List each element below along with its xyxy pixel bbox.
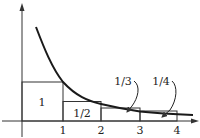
x-tick-labels: 1 2 3 4	[60, 124, 181, 137]
y-axis-arrow-icon	[20, 3, 25, 11]
x-tick-4: 4	[174, 124, 181, 137]
curve-1-over-x	[36, 27, 193, 115]
x-tick-2: 2	[98, 124, 105, 137]
harmonic-area-diagram: 1 2 3 4 1 1/2 1/3 1/4	[0, 0, 200, 138]
callout-1-3-label: 1/3	[114, 75, 132, 88]
callout-1-4-label: 1/4	[152, 75, 170, 88]
rectangle-1-2-label: 1/2	[73, 107, 91, 120]
x-axis-arrow-icon	[191, 119, 199, 124]
x-tick-1: 1	[60, 124, 67, 137]
x-tick-3: 3	[137, 124, 144, 137]
rectangle-1-label: 1	[39, 96, 46, 109]
